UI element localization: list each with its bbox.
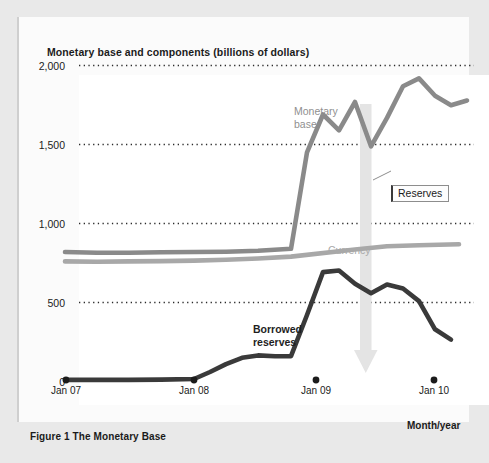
gridlines xyxy=(79,66,474,303)
figure-caption: Figure 1 The Monetary Base xyxy=(30,431,166,442)
annotation-monetary-base: Monetary base xyxy=(294,105,338,130)
x-tick-dot-jan08 xyxy=(191,377,198,384)
reserves-leader-line xyxy=(373,171,391,180)
x-tick-dot-jan09 xyxy=(313,377,320,384)
x-tick-dot-jan07 xyxy=(63,377,70,384)
series-monetary-base xyxy=(65,78,467,252)
x-tick-label-jan10: Jan 10 xyxy=(404,385,464,396)
annotation-borrowed-reserves: Borrowed reserves xyxy=(253,323,302,348)
annotation-monetary-base-line2: base xyxy=(294,118,317,130)
annotation-reserves-callout: Reserves xyxy=(391,185,449,202)
annotation-monetary-base-line1: Monetary xyxy=(294,105,338,117)
annotation-borrowed-reserves-line2: reserves xyxy=(253,336,296,348)
chart-svg xyxy=(19,17,471,422)
annotation-borrowed-reserves-line1: Borrowed xyxy=(253,323,302,335)
chart-panel: Monetary base and components (billions o… xyxy=(17,17,469,422)
x-tick-dot-jan10 xyxy=(431,377,438,384)
x-tick-label-jan07: Jan 07 xyxy=(36,385,96,396)
annotation-currency: Currency xyxy=(328,244,371,257)
x-axis-title: Month/year xyxy=(407,420,460,431)
x-tick-label-jan08: Jan 08 xyxy=(164,385,224,396)
x-tick-label-jan09: Jan 09 xyxy=(286,385,346,396)
